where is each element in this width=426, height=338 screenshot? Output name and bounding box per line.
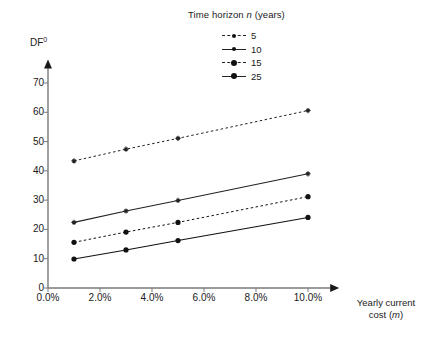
series-line-10 xyxy=(74,174,308,223)
data-point-marker xyxy=(123,208,128,213)
data-point-marker xyxy=(71,158,76,163)
plot-area xyxy=(0,0,426,338)
data-series-5 xyxy=(71,108,310,164)
axes xyxy=(44,60,339,292)
data-point-marker xyxy=(123,147,128,152)
data-series-10 xyxy=(71,171,310,225)
data-point-marker xyxy=(305,194,310,199)
data-point-marker xyxy=(305,215,310,220)
data-point-marker xyxy=(123,247,128,252)
y-axis-arrow-icon xyxy=(44,60,52,69)
data-series-15 xyxy=(71,194,310,245)
data-point-marker xyxy=(71,220,76,225)
x-axis-arrow-icon xyxy=(330,284,339,292)
data-point-marker xyxy=(71,256,76,261)
data-point-marker xyxy=(305,171,310,176)
data-point-marker xyxy=(175,238,180,243)
data-point-marker xyxy=(305,108,310,113)
series-line-5 xyxy=(74,111,308,161)
data-point-marker xyxy=(123,229,128,234)
data-point-marker xyxy=(71,240,76,245)
data-point-marker xyxy=(175,198,180,203)
data-point-marker xyxy=(175,136,180,141)
data-series-25 xyxy=(71,215,310,262)
data-point-marker xyxy=(175,220,180,225)
series-line-25 xyxy=(74,217,308,259)
chart-container: Time horizon n (years) 5 10 15 25 xyxy=(0,0,426,338)
data-series-layer xyxy=(71,108,310,262)
series-line-15 xyxy=(74,197,308,243)
